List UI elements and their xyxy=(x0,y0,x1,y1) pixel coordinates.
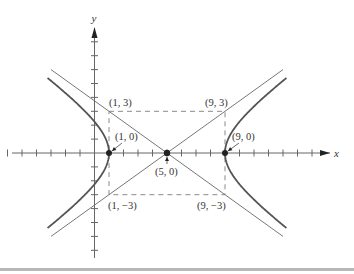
label-top-left: (1, 3) xyxy=(109,97,132,109)
point-vertex-left xyxy=(106,150,112,156)
label-vertex-left: (1, 0) xyxy=(115,131,138,143)
x-axis-label: x xyxy=(333,147,339,159)
label-bottom-right: (9, −3) xyxy=(197,200,226,212)
bottom-divider xyxy=(0,268,354,271)
label-bottom-left: (1, −3) xyxy=(108,200,137,212)
center-arrow-icon xyxy=(165,157,169,161)
label-center: (5, 0) xyxy=(155,166,178,178)
point-vertex-right xyxy=(222,150,228,156)
y-axis-label: y xyxy=(91,12,97,24)
x-axis-arrow-icon xyxy=(320,150,330,156)
hyperbola-diagram: xy (1, 3)(9, 3)(1, −3)(9, −3)(1, 0)(9, 0… xyxy=(0,0,354,274)
y-axis-arrow-icon xyxy=(92,27,98,38)
plot-canvas: xy (1, 3)(9, 3)(1, −3)(9, −3)(1, 0)(9, 0… xyxy=(0,0,354,274)
label-vertex-right: (9, 0) xyxy=(232,131,255,143)
vertex-right-arrow-icon xyxy=(228,147,232,151)
point-center xyxy=(164,150,170,156)
label-top-right: (9, 3) xyxy=(205,97,228,109)
